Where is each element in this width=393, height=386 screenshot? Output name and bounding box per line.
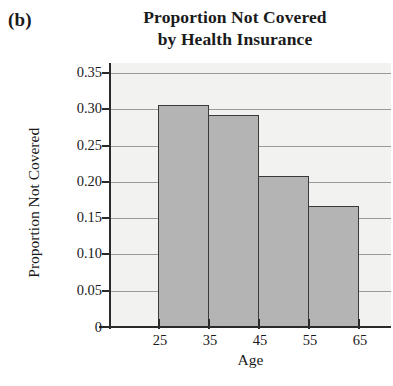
gridline-0.30 [110,109,391,110]
bar-age-35-45 [208,115,259,328]
x-tick-label-55: 55 [290,333,330,348]
x-tick-label-45: 45 [240,333,280,348]
chart-title-line-two: by Health Insurance [95,28,375,50]
x-tick-label-25: 25 [140,333,180,348]
y-tick-mark-0.10 [102,253,111,255]
y-tick-mark-0.30 [102,108,111,110]
x-tick-label-35: 35 [190,333,230,348]
x-axis-line [99,326,391,328]
x-tick-mark-35 [208,319,210,329]
gridline-0.35 [110,73,391,74]
y-axis-line [109,63,111,328]
figure-histogram-panel-b: (b) Proportion Not Covered by Health Ins… [0,0,393,386]
y-tick-label-0.10: 0.10 [56,246,102,261]
x-tick-mark-origin [109,319,111,329]
y-tick-mark-0.25 [102,145,111,147]
panel-label: (b) [8,10,32,29]
x-tick-mark-45 [258,319,260,329]
y-tick-label-0.20: 0.20 [56,174,102,189]
y-tick-label-0.15: 0.15 [56,210,102,225]
chart-title-line-one: Proportion Not Covered [95,6,375,28]
y-tick-label-0.35: 0.35 [56,65,102,80]
bar-age-45-55 [258,176,309,328]
x-tick-mark-25 [158,319,160,329]
x-tick-mark-65 [358,319,360,329]
y-tick-label-0.30: 0.30 [56,101,102,116]
y-axis-title: Proportion Not Covered [26,103,42,303]
bar-age-25-35 [158,105,209,328]
y-tick-mark-0.05 [102,290,111,292]
x-tick-mark-55 [308,319,310,329]
y-tick-label-0.25: 0.25 [56,138,102,153]
x-axis-title: Age [110,352,391,368]
x-tick-label-65: 65 [340,333,380,348]
y-tick-mark-0.15 [102,217,111,219]
bar-age-55-65 [308,206,359,328]
y-tick-label-0: 0 [56,320,102,335]
y-tick-label-0.05: 0.05 [56,283,102,298]
y-tick-mark-0.20 [102,181,111,183]
chart-title: Proportion Not Covered by Health Insuran… [95,6,375,51]
y-tick-mark-0.35 [102,72,111,74]
